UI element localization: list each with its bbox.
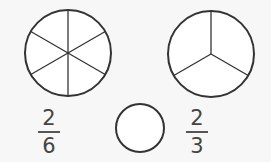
left-fraction: 2 6	[34, 107, 64, 157]
right-fraction: 2 3	[182, 107, 212, 157]
comparison-answer-circle[interactable]	[116, 104, 164, 152]
left-numerator: 2	[34, 107, 64, 129]
left-denominator: 6	[34, 135, 64, 157]
right-numerator: 2	[182, 107, 212, 129]
right-denominator: 3	[182, 135, 212, 157]
circle-thirds	[168, 11, 254, 97]
fraction-bar	[186, 131, 208, 133]
circle-sixths	[25, 10, 111, 96]
fraction-bar	[38, 131, 60, 133]
